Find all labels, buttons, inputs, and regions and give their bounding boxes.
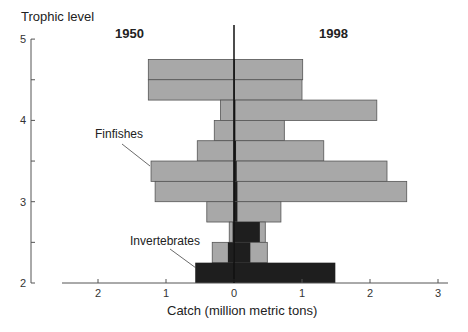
finfish-bar	[197, 141, 234, 161]
y-tick-label: 3	[20, 196, 26, 208]
finfish-bar	[234, 202, 281, 222]
invertebrate-bar	[234, 222, 260, 242]
finfish-bar	[151, 161, 234, 181]
finfish-bar	[207, 202, 234, 222]
y-tick-label: 2	[20, 277, 26, 289]
y-tick-label: 5	[20, 33, 26, 45]
finfish-bar	[234, 80, 302, 100]
x-tick-label: 1	[163, 287, 169, 299]
x-tick-label: 2	[95, 287, 101, 299]
finfishes-annotation: Finfishes	[95, 127, 143, 141]
x-tick-label: 1	[299, 287, 305, 299]
invertebrate-bar	[234, 263, 335, 283]
finfish-bar	[214, 120, 234, 140]
x-axis-label: Catch (million metric tons)	[167, 303, 317, 318]
y-ticks: 2345	[20, 33, 35, 289]
x-tick-label: 0	[231, 287, 237, 299]
invertebrate-bar	[234, 242, 250, 262]
year-1950-label: 1950	[115, 26, 144, 41]
y-axis-label: Trophic level	[21, 9, 94, 24]
bars-group	[148, 59, 406, 283]
year-1998-label: 1998	[319, 26, 348, 41]
finfish-bar	[234, 59, 303, 79]
catch-by-trophic-level-chart: 2345 210123	[0, 0, 468, 332]
finfish-bar	[155, 181, 234, 201]
finfish-bar	[234, 141, 324, 161]
finfish-bar	[220, 100, 234, 120]
finfishes-leader-line	[122, 144, 150, 166]
invertebrates-annotation: Invertebrates	[130, 234, 200, 248]
x-tick-label: 3	[435, 287, 441, 299]
finfish-bar	[234, 181, 407, 201]
finfish-bar	[234, 100, 377, 120]
invertebrate-bar	[228, 242, 234, 262]
y-tick-label: 4	[20, 114, 26, 126]
x-tick-label: 2	[367, 287, 373, 299]
invertebrates-leader-line	[170, 249, 196, 268]
invertebrate-bar	[195, 263, 234, 283]
finfish-bar	[234, 120, 284, 140]
finfish-bar	[234, 161, 387, 181]
finfish-bar	[148, 80, 234, 100]
finfish-bar	[148, 59, 234, 79]
